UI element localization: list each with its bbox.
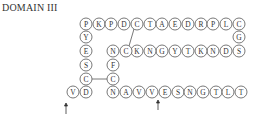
residue-inner-0: F: [107, 59, 119, 71]
residue-top-8: D: [182, 18, 194, 30]
residue-top-5: T: [144, 18, 156, 30]
residue-bot-10: T: [235, 86, 247, 98]
residue-bot-1: A: [120, 86, 132, 98]
residue-mid-10: S: [233, 45, 245, 57]
residue-letter: L: [226, 88, 231, 97]
residue-letter: T: [148, 20, 153, 29]
cleavage-arrow-icon: [157, 100, 160, 110]
residue-letter: A: [123, 88, 129, 97]
residue-top-7: E: [169, 18, 181, 30]
residue-letter: G: [236, 33, 242, 42]
residue-letter: A: [159, 20, 165, 29]
residue-letter: C: [123, 47, 128, 56]
residue-letter: E: [163, 88, 168, 97]
arrows: [65, 100, 160, 114]
residue-letter: P: [84, 20, 88, 29]
residue-letter: C: [134, 20, 139, 29]
residue-inner-1: C: [107, 73, 119, 85]
residue-letter: L: [224, 20, 229, 29]
residue-top-11: L: [220, 18, 232, 30]
residue-top-9: R: [195, 18, 207, 30]
residue-letter: D: [185, 20, 191, 29]
residue-mid-6: T: [182, 45, 194, 57]
residue-letter: V: [149, 88, 155, 97]
residue-letter: D: [223, 47, 229, 56]
residue-letter: Y: [172, 47, 178, 56]
residue-letter: G: [159, 47, 165, 56]
residue-letter: S: [84, 61, 88, 70]
residue-letter: F: [111, 61, 115, 70]
residue-left-1: Y: [80, 31, 92, 43]
residue-top-2: P: [105, 18, 117, 30]
residue-bot-4: E: [159, 86, 171, 98]
residue-left-4: C: [80, 73, 92, 85]
residue-bot-6: N: [184, 86, 196, 98]
residue-top-1: K: [93, 18, 105, 30]
residue-letter: N: [187, 88, 193, 97]
residue-top-12: C: [233, 18, 245, 30]
residue-letter: N: [110, 47, 116, 56]
residue-letter: N: [147, 47, 153, 56]
residue-left-6: V: [67, 86, 79, 98]
residue-letter: K: [198, 47, 204, 56]
residue-top-6: A: [156, 18, 168, 30]
residue-mid-9: D: [220, 45, 232, 57]
residue-top-3: D: [118, 18, 130, 30]
residue-letter: C: [236, 20, 241, 29]
residue-letter: K: [96, 20, 102, 29]
residue-bot-0: N: [107, 86, 119, 98]
residue-letter: V: [70, 88, 76, 97]
residue-mid-8: N: [207, 45, 219, 57]
residue-mid-1: C: [120, 45, 132, 57]
residue-letter: G: [200, 88, 206, 97]
residue-letter: T: [239, 88, 244, 97]
residue-letter: E: [173, 20, 178, 29]
residue-top-4: C: [131, 18, 143, 30]
residue-bot-2: V: [133, 86, 145, 98]
residue-bot-3: V: [146, 86, 158, 98]
residue-mid-0: N: [107, 45, 119, 57]
disulfide-bond: [129, 29, 134, 46]
residue-letter: C: [110, 75, 115, 84]
residue-letter: R: [198, 20, 203, 29]
cleavage-arrow-icon: [65, 103, 68, 114]
residue-letter: K: [134, 47, 140, 56]
residue-diagram: PKPDCTAEDRPLCGSDNKTYGNKCNFCNAVVESNGTLTYE…: [0, 0, 266, 115]
residue-left-5: D: [80, 86, 92, 98]
residue-letter: E: [84, 47, 89, 56]
residue-letter: N: [110, 88, 116, 97]
residue-mid-4: G: [156, 45, 168, 57]
residue-left-3: S: [80, 59, 92, 71]
residue-bot-7: G: [197, 86, 209, 98]
residue-bot-8: T: [210, 86, 222, 98]
residue-letter: T: [214, 88, 219, 97]
residue-mid-3: N: [144, 45, 156, 57]
residue-letter: D: [83, 88, 89, 97]
residue-letter: C: [83, 75, 88, 84]
residue-mid-7: K: [195, 45, 207, 57]
residue-letter: V: [136, 88, 142, 97]
residue-letter: N: [210, 47, 216, 56]
residue-right-0: G: [233, 31, 245, 43]
residue-bot-9: L: [222, 86, 234, 98]
residue-letter: D: [121, 20, 127, 29]
residue-mid-2: K: [131, 45, 143, 57]
residue-top-0: P: [80, 18, 92, 30]
residue-letter: S: [237, 47, 241, 56]
residue-letter: S: [176, 88, 180, 97]
residue-letter: P: [211, 20, 215, 29]
residue-letter: P: [109, 20, 113, 29]
residue-top-10: P: [207, 18, 219, 30]
residue-mid-5: Y: [169, 45, 181, 57]
residue-chain: PKPDCTAEDRPLCGSDNKTYGNKCNFCNAVVESNGTLTYE…: [67, 18, 247, 98]
residue-letter: T: [186, 47, 191, 56]
residue-left-2: E: [80, 45, 92, 57]
residue-bot-5: S: [172, 86, 184, 98]
residue-letter: Y: [83, 33, 89, 42]
